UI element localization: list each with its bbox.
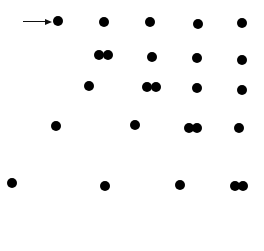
dot-row-3-5 <box>237 85 247 95</box>
dot-row-5-3 <box>175 180 185 190</box>
arrow-line <box>23 21 46 22</box>
dot-row-5-5 <box>238 181 248 191</box>
dot-row-2-4 <box>192 53 202 63</box>
dot-row-4-5 <box>234 123 244 133</box>
dot-diagram <box>0 0 264 251</box>
dot-row-3-4 <box>192 83 202 93</box>
dot-row-2-5 <box>237 55 247 65</box>
dot-row-2-3 <box>147 52 157 62</box>
dot-row-2-2 <box>103 50 113 60</box>
dot-row-4-4 <box>192 123 202 133</box>
dot-row-1-4 <box>193 19 203 29</box>
dot-row-1-5 <box>237 18 247 28</box>
arrow-head-icon <box>45 19 52 25</box>
dot-row-3-3 <box>151 82 161 92</box>
dot-row-3-1 <box>84 81 94 91</box>
dot-row-5-1 <box>7 178 17 188</box>
dot-row-1-1 <box>53 16 63 26</box>
dot-row-4-1 <box>51 121 61 131</box>
dot-row-4-2 <box>130 120 140 130</box>
dot-row-1-3 <box>145 17 155 27</box>
dot-row-1-2 <box>99 17 109 27</box>
dot-row-5-2 <box>100 181 110 191</box>
